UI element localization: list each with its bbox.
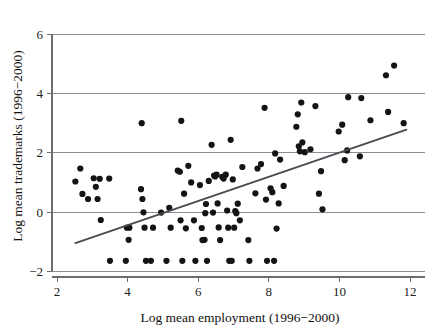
data-point bbox=[126, 237, 132, 243]
x-tick-label-8: 8 bbox=[266, 284, 273, 299]
data-point bbox=[203, 201, 209, 207]
data-point bbox=[178, 118, 184, 124]
data-point bbox=[163, 258, 169, 264]
data-point bbox=[307, 146, 313, 152]
data-point bbox=[206, 178, 212, 184]
data-point bbox=[357, 153, 363, 159]
y-tick-label-4: 4 bbox=[37, 86, 44, 101]
x-tick-label-4: 4 bbox=[124, 284, 131, 299]
data-point bbox=[261, 105, 267, 111]
data-point bbox=[148, 258, 154, 264]
data-point bbox=[263, 196, 269, 202]
data-point bbox=[252, 190, 258, 196]
data-point bbox=[367, 117, 373, 123]
data-point bbox=[210, 209, 216, 215]
data-point bbox=[258, 161, 264, 167]
data-point bbox=[138, 186, 144, 192]
data-point bbox=[231, 225, 237, 231]
data-point bbox=[246, 258, 252, 264]
data-point bbox=[197, 182, 203, 188]
data-point bbox=[168, 225, 174, 231]
data-point bbox=[106, 175, 112, 181]
y-tick-label-6: 6 bbox=[37, 27, 44, 42]
x-tick-label-10: 10 bbox=[333, 284, 346, 299]
data-point bbox=[201, 237, 207, 243]
data-point bbox=[192, 258, 198, 264]
x-tick-label-2: 2 bbox=[54, 284, 61, 299]
y-tick-label-2: 2 bbox=[37, 145, 44, 160]
data-point bbox=[183, 225, 189, 231]
data-point bbox=[217, 237, 223, 243]
y-axis-title: Log mean trademarks (1996−2000) bbox=[10, 50, 25, 242]
data-point bbox=[98, 217, 104, 223]
data-point bbox=[336, 128, 342, 134]
y-tick-label--2: −2 bbox=[29, 264, 43, 279]
data-point bbox=[188, 179, 194, 185]
data-point bbox=[216, 224, 222, 230]
regression-line bbox=[75, 130, 406, 243]
axis-ticks bbox=[47, 34, 410, 282]
data-point bbox=[230, 176, 236, 182]
data-point bbox=[391, 62, 397, 68]
data-point bbox=[281, 183, 287, 189]
data-point bbox=[72, 178, 78, 184]
x-tick-label-6: 6 bbox=[195, 284, 202, 299]
data-point bbox=[318, 168, 324, 174]
data-point bbox=[140, 209, 146, 215]
data-point bbox=[179, 258, 185, 264]
data-point bbox=[233, 210, 239, 216]
tick-labels: −2024624681012 bbox=[29, 27, 416, 299]
data-point bbox=[269, 189, 275, 195]
data-point bbox=[209, 142, 215, 148]
data-point bbox=[91, 175, 97, 181]
data-point bbox=[319, 206, 325, 212]
data-point bbox=[204, 258, 210, 264]
gridlines bbox=[52, 34, 425, 271]
data-point bbox=[293, 124, 299, 130]
data-point bbox=[245, 237, 251, 243]
data-point bbox=[94, 196, 100, 202]
data-point bbox=[77, 165, 83, 171]
data-point bbox=[213, 172, 219, 178]
data-point bbox=[383, 72, 389, 78]
data-point bbox=[199, 225, 205, 231]
data-point bbox=[239, 164, 245, 170]
data-point bbox=[312, 103, 318, 109]
data-point bbox=[123, 258, 129, 264]
data-point bbox=[272, 150, 278, 156]
data-point bbox=[215, 200, 221, 206]
data-point bbox=[358, 95, 364, 101]
data-point bbox=[295, 111, 301, 117]
data-point bbox=[345, 94, 351, 100]
data-point bbox=[150, 225, 156, 231]
data-point bbox=[276, 200, 282, 206]
data-point bbox=[93, 184, 99, 190]
data-point bbox=[339, 122, 345, 128]
data-point bbox=[177, 217, 183, 223]
data-point bbox=[181, 191, 187, 197]
data-point bbox=[264, 258, 270, 264]
data-point bbox=[107, 258, 113, 264]
data-point bbox=[385, 109, 391, 115]
data-point bbox=[271, 258, 277, 264]
data-point bbox=[401, 120, 407, 126]
data-point bbox=[302, 149, 308, 155]
x-axis-title: Log mean employment (1996−2000) bbox=[140, 310, 339, 325]
plot-canvas: −2024624681012 Log mean employment (1996… bbox=[0, 0, 437, 330]
data-point bbox=[202, 210, 208, 216]
data-point bbox=[228, 137, 234, 143]
scatter-plot-figure: −2024624681012 Log mean employment (1996… bbox=[0, 0, 437, 330]
data-point bbox=[223, 172, 229, 178]
data-point bbox=[224, 207, 230, 213]
data-point bbox=[235, 201, 241, 207]
data-points bbox=[72, 62, 406, 264]
axes bbox=[52, 34, 425, 277]
data-point bbox=[139, 196, 145, 202]
data-point bbox=[277, 157, 283, 163]
data-point bbox=[298, 99, 304, 105]
data-point bbox=[191, 217, 197, 223]
x-tick-label-12: 12 bbox=[404, 284, 417, 299]
data-point bbox=[139, 120, 145, 126]
data-point bbox=[229, 258, 235, 264]
y-tick-label-0: 0 bbox=[37, 205, 44, 220]
